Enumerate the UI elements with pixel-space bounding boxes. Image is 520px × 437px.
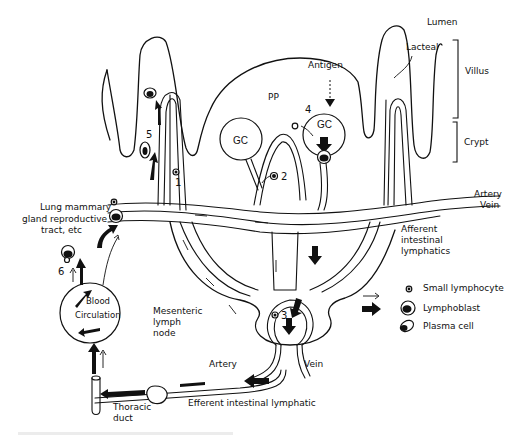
gc-right-label: GC: [317, 119, 332, 130]
thoracic-duct-top: [92, 376, 100, 380]
efferent-thick-arrow-3: [108, 390, 145, 397]
vein-right-label: Vein: [480, 200, 499, 210]
lung-lymphoblast-nucleus: [112, 214, 121, 221]
villus-plasma-cell-top-nucleus: [147, 91, 154, 97]
thick-arrow-icon: [362, 302, 381, 316]
legend-label-lymphoblast: Lymphoblast: [423, 303, 481, 313]
circulation-label: Circulation: [75, 310, 121, 320]
lung-small-lymphocyte-nucleus: [113, 201, 116, 204]
gc-left-label: GC: [233, 135, 248, 146]
crypt-bracket: [453, 122, 457, 162]
thin-arrow-icon: [363, 293, 379, 299]
artery-arrow-2: [255, 222, 268, 223]
pp-label: PP: [268, 92, 279, 102]
step-6-label: 6: [58, 266, 64, 277]
step-3-nucleus: [274, 314, 277, 317]
antigen-arrowhead: [325, 99, 335, 107]
pp-right-vessel: [318, 163, 327, 210]
node-thick-arrow-top: [290, 298, 302, 318]
main-vein: [108, 206, 500, 225]
node-arrow-1: [183, 240, 188, 250]
thoracic-label-1: Thoracic: [112, 402, 151, 412]
caption-smudge: [18, 432, 233, 435]
step-4-small-lymphocyte: [292, 123, 298, 129]
gc-right-lymphoblast-nucleus: [320, 155, 329, 162]
efferent-thick-arrow-2: [180, 382, 205, 387]
plasma-cell-icon: [398, 318, 415, 334]
lung-label-3: tract, etc: [41, 225, 82, 235]
mesenteric-label-3: node: [153, 328, 176, 338]
crypt-label: Crypt: [464, 137, 489, 147]
legend: Small lymphocyte Lymphoblast Plasma cell: [362, 283, 504, 334]
blood-to-organs-thick-arrow: [97, 225, 118, 248]
step-5-nucleus: [143, 147, 148, 155]
small-lymphocyte-icon-nucleus: [408, 288, 411, 291]
lymphoblast-icon-nucleus: [403, 305, 412, 313]
node-arrow-3: [229, 305, 236, 314]
vein-bottom-label: Vein: [304, 359, 323, 369]
legend-label-small-lymphocyte: Small lymphocyte: [423, 283, 504, 293]
villus-label: Villus: [465, 66, 489, 76]
thoracic-to-blood-thick-arrow: [88, 343, 100, 374]
legend-item-lymphoblast: Lymphoblast: [362, 301, 481, 316]
blood-label: Blood: [86, 296, 110, 306]
main-vessel-lower: [108, 216, 440, 234]
villus-right-vessels: [384, 99, 412, 205]
node-vessel-left: [180, 222, 258, 296]
blood-to-step6-thick-arrow: [76, 258, 86, 285]
legend-item-small-lymphocyte: Small lymphocyte: [363, 283, 504, 299]
lymphocyte-circulation-diagram: Lumen Lacteal Villus Crypt Antigen PP GC…: [0, 0, 520, 437]
mesenteric-label-2: lymph: [153, 317, 181, 327]
thoracic-duct: [92, 378, 100, 415]
step-2-nucleus: [272, 174, 276, 178]
step-4-label: 4: [305, 104, 311, 115]
thoracic-to-blood-thin-arrow: [100, 350, 106, 368]
step-6-small-lymphocyte: [65, 258, 70, 263]
villus-left-vessels: [158, 93, 186, 210]
step-1-label: 1: [175, 177, 181, 188]
efferent-valve: [147, 386, 167, 404]
step-1-nucleus: [175, 171, 178, 174]
lung-label-1: Lung mammary: [40, 202, 112, 212]
plasma-cell-icon-nucleus: [401, 325, 408, 331]
legend-label-plasma-cell: Plasma cell: [423, 321, 474, 331]
antigen-label: Antigen: [308, 60, 343, 70]
lacteal-label: Lacteal: [406, 42, 439, 52]
step-5-thick-arrow: [149, 152, 158, 180]
node-arrow-2: [206, 278, 214, 286]
villus-bracket: [453, 40, 458, 118]
lumen-label: Lumen: [427, 17, 458, 27]
step-6-nucleus: [64, 251, 73, 258]
mesenteric-label-1: Mesenteric: [153, 306, 202, 316]
afferent-label-1: Afferent: [401, 224, 438, 234]
step-2-label: 2: [281, 171, 287, 182]
legend-item-plasma-cell: Plasma cell: [398, 318, 473, 334]
step-5-label: 5: [146, 129, 152, 140]
artery-right-label: Artery: [474, 189, 503, 199]
node-artery: [252, 345, 281, 382]
afferent-label-2: intestinal: [401, 235, 443, 245]
pp-efferent-thick-arrow: [308, 246, 322, 265]
pp-vessel-loop: [254, 134, 306, 205]
efferent-label: Efferent intestinal lymphatic: [188, 398, 316, 408]
gc-left-stalk: [246, 159, 262, 190]
artery-bottom-label: Artery: [209, 359, 238, 369]
lung-label-2: gland reproductive: [22, 214, 107, 224]
afferent-label-3: lymphatics: [401, 246, 451, 256]
step-6-up-arrow: [70, 268, 76, 282]
thoracic-label-2: duct: [113, 413, 133, 423]
blood-to-organs-thin-arrow: [103, 235, 119, 285]
